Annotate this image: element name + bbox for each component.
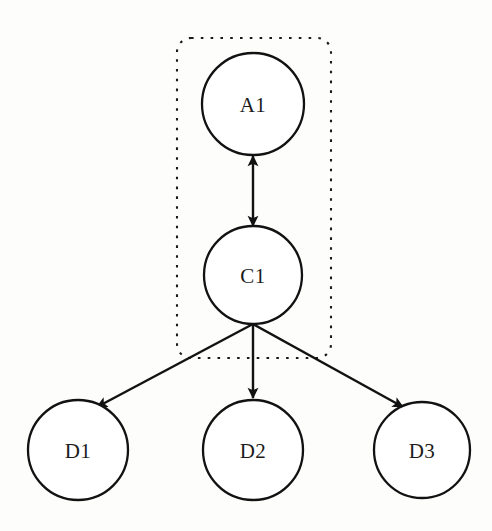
node-label-a1: A1: [240, 93, 266, 117]
diagram-canvas: A1 C1 D1 D2 D3: [0, 0, 492, 531]
edge-c1-to-d1: [97, 324, 253, 407]
edge-c1-to-d3: [253, 324, 403, 407]
node-d1[interactable]: D1: [28, 400, 128, 500]
node-d2[interactable]: D2: [203, 400, 303, 500]
node-label-c1: C1: [240, 264, 265, 288]
node-c1[interactable]: C1: [204, 226, 302, 324]
node-d3[interactable]: D3: [374, 402, 470, 498]
diagram-svg: A1 C1 D1 D2 D3: [0, 0, 492, 531]
node-label-d3: D3: [409, 439, 435, 463]
node-a1[interactable]: A1: [202, 53, 304, 155]
node-label-d1: D1: [65, 439, 91, 463]
node-label-d2: D2: [240, 439, 266, 463]
